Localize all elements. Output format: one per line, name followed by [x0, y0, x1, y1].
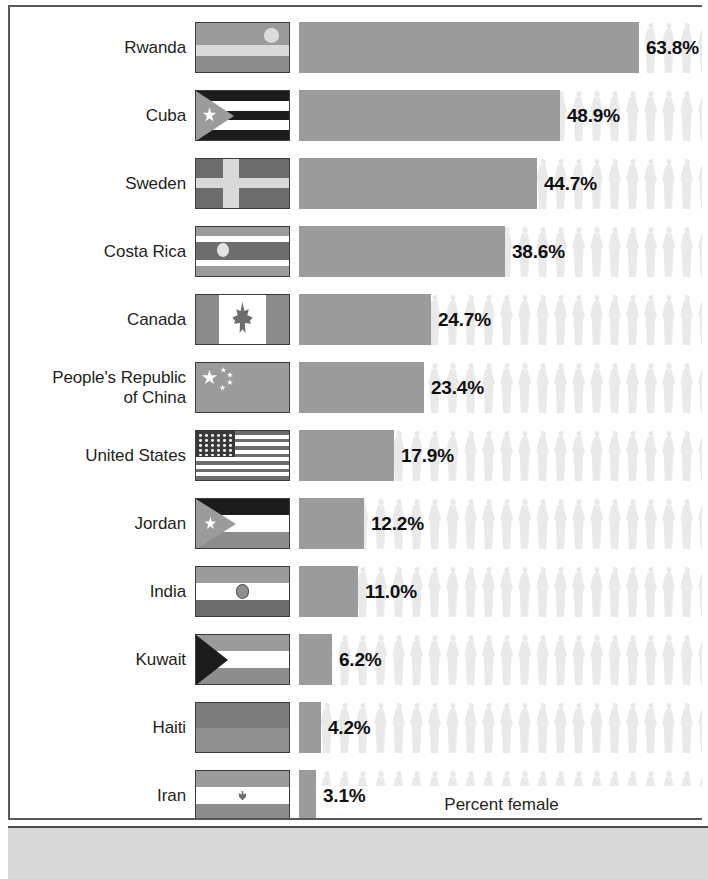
flag-star — [199, 439, 202, 442]
flag-stripe — [196, 227, 289, 236]
bar-india — [299, 566, 358, 617]
country-label-kuwait: Kuwait — [10, 633, 186, 687]
country-label-line: People's Republic — [52, 368, 186, 387]
country-label-india: India — [10, 565, 186, 619]
flag-star — [211, 439, 214, 442]
flag-iran — [195, 770, 290, 820]
chart-row: Haiti4.2% — [10, 701, 702, 755]
country-label-sweden: Sweden — [10, 157, 186, 211]
country-label-haiti: Haiti — [10, 701, 186, 755]
flag-star — [205, 434, 208, 437]
chart-frame: Rwanda63.8%Cuba48.9%Sweden44.7%Costa Ric… — [8, 5, 702, 820]
flag-star — [217, 439, 220, 442]
bar-sweden — [299, 158, 537, 209]
flag-stripe — [196, 771, 289, 787]
flag-field — [196, 363, 289, 412]
chart-row: Kuwait6.2% — [10, 633, 702, 687]
country-label-cuba: Cuba — [10, 89, 186, 143]
page-bottom-strip — [8, 826, 708, 879]
country-label-rwanda: Rwanda — [10, 21, 186, 75]
bar-kuwait — [299, 634, 332, 685]
country-label-united-states: United States — [10, 429, 186, 483]
chart-row: Jordan12.2% — [10, 497, 702, 551]
flag-hoist-triangle — [196, 499, 236, 549]
flag-kuwait — [195, 634, 290, 685]
flag-stripe — [196, 266, 289, 276]
flag-star — [199, 449, 202, 452]
flag-cross-horizontal — [196, 178, 289, 189]
flag-chakra — [236, 584, 249, 599]
plot-area: Rwanda63.8%Cuba48.9%Sweden44.7%Costa Ric… — [10, 7, 702, 820]
flag-sweden — [195, 158, 290, 209]
chart-row: Cuba48.9% — [10, 89, 702, 143]
value-label: 11.0% — [365, 565, 417, 619]
bar-united-states — [299, 430, 394, 481]
flag-india — [195, 566, 290, 617]
value-label: 4.2% — [328, 701, 371, 755]
bar-people-s-republic-of-china — [299, 362, 424, 413]
country-label-costa-rica: Costa Rica — [10, 225, 186, 279]
flag-jordan — [195, 498, 290, 549]
chart-row: Sweden44.7% — [10, 157, 702, 211]
flag-star — [205, 439, 208, 442]
flag-star — [211, 444, 214, 447]
flag-cuba — [195, 90, 290, 141]
flag-star — [223, 449, 226, 452]
value-label: 17.9% — [401, 429, 454, 483]
flag-hoist-triangle — [196, 635, 228, 685]
flag-star — [217, 449, 220, 452]
chart-row: India11.0% — [10, 565, 702, 619]
flag-star — [205, 444, 208, 447]
chart-page: Rwanda63.8%Cuba48.9%Sweden44.7%Costa Ric… — [0, 0, 708, 879]
country-label-line: of China — [123, 388, 186, 407]
flag-stripe — [196, 45, 289, 56]
flag-canada — [195, 294, 290, 345]
flag-star — [199, 444, 202, 447]
chart-row: Rwanda63.8% — [10, 21, 702, 75]
value-label: 38.6% — [512, 225, 565, 279]
flag-stripe — [196, 476, 289, 480]
value-label: 24.7% — [438, 293, 491, 347]
flag-cross-vertical — [223, 159, 239, 208]
chart-row: United States17.9% — [10, 429, 702, 483]
flag-star — [217, 444, 220, 447]
flag-star — [199, 434, 202, 437]
bar-cuba — [299, 90, 560, 141]
country-label-canada: Canada — [10, 293, 186, 347]
bar-jordan — [299, 498, 364, 549]
value-label: 23.4% — [431, 361, 484, 415]
x-axis-title: Percent female — [299, 791, 702, 819]
flag-haiti — [195, 702, 290, 753]
flag-stripe — [196, 600, 289, 616]
bar-rwanda — [299, 22, 639, 73]
value-label: 44.7% — [544, 157, 597, 211]
chart-row: Canada24.7% — [10, 293, 702, 347]
flag-star — [211, 434, 214, 437]
bar-canada — [299, 294, 431, 345]
chart-row: People's Republicof China23.4% — [10, 361, 702, 415]
value-label: 6.2% — [339, 633, 382, 687]
country-label-iran: Iran — [10, 769, 186, 820]
flag-star — [205, 449, 208, 452]
flag-stripe — [196, 804, 289, 820]
flag-united-states — [195, 430, 290, 481]
value-label: 48.9% — [567, 89, 620, 143]
country-label-people-s-republic-of-china: People's Republicof China — [10, 361, 186, 415]
chart-row: Costa Rica38.6% — [10, 225, 702, 279]
flag-stripe — [196, 703, 289, 728]
bar-haiti — [299, 702, 321, 753]
flag-rwanda — [195, 22, 290, 73]
flag-sun — [264, 28, 279, 43]
flag-hoist-triangle — [196, 91, 234, 141]
flag-stripe — [196, 567, 289, 583]
bar-costa-rica — [299, 226, 505, 277]
flag-china — [195, 362, 290, 413]
flag-stripe — [196, 728, 289, 753]
country-label-jordan: Jordan — [10, 497, 186, 551]
flag-costa-rica — [195, 226, 290, 277]
flag-stripe — [196, 242, 289, 260]
flag-stripe — [196, 56, 289, 72]
value-label: 63.8% — [646, 21, 699, 75]
value-label: 12.2% — [371, 497, 424, 551]
flag-star — [211, 449, 214, 452]
